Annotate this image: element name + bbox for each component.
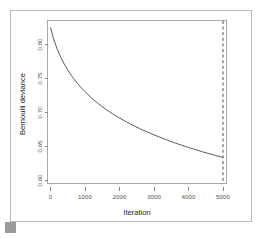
plot-svg: 0.80 0.75 0.70 0.65 0.60 Bernoulli devia… — [0, 0, 262, 239]
x-tick-label: 4000 — [182, 193, 196, 200]
y-tick-label: 0.80 — [36, 38, 43, 51]
x-tick-label: 1000 — [78, 193, 92, 200]
y-tick-label: 0.70 — [36, 106, 43, 119]
x-axis-ticks — [51, 187, 224, 191]
plot-panel — [48, 21, 227, 184]
x-tick-labels: 0 1000 2000 3000 4000 5000 — [49, 193, 231, 200]
x-tick-label: 0 — [49, 193, 53, 200]
x-tick-label: 3000 — [147, 193, 161, 200]
y-tick-label: 0.75 — [36, 72, 43, 85]
x-axis-title: Iteration — [123, 208, 150, 217]
y-tick-label: 0.60 — [36, 174, 43, 187]
y-tick-label: 0.65 — [36, 140, 43, 153]
x-tick-label: 2000 — [113, 193, 127, 200]
x-tick-label: 5000 — [216, 193, 230, 200]
y-axis-title: Bernoulli deviance — [18, 73, 27, 135]
y-tick-labels: 0.80 0.75 0.70 0.65 0.60 — [36, 38, 43, 187]
deviance-plot: 0.80 0.75 0.70 0.65 0.60 Bernoulli devia… — [0, 0, 262, 239]
